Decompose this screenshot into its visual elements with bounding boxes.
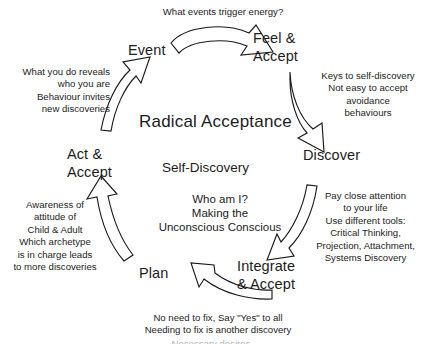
annotation-plan-to-act: Awareness of attitude of Child & Adult W…: [4, 199, 106, 274]
annotation-event-to-feel: What events trigger energy?: [148, 6, 298, 18]
annotation-integrate-to-plan: No need to fix, Say "Yes" to all Needing…: [98, 312, 338, 337]
node-plan[interactable]: Plan: [139, 265, 168, 283]
node-act-accept[interactable]: Act & Accept: [67, 146, 112, 181]
center-question-block: Who am I? Making the Unconscious Conscio…: [140, 192, 300, 234]
annotation-act-to-event: What you do reveals who you are Behaviou…: [10, 66, 110, 116]
radical-acceptance-diagram: Radical Acceptance Self-Discovery Who am…: [0, 0, 432, 344]
page-title: Radical Acceptance: [139, 112, 292, 133]
node-discover[interactable]: Discover: [303, 147, 360, 165]
annotation-discover-to-integrate: Pay close attention to your life Use dif…: [299, 190, 432, 265]
annotation-feel-to-discover: Keys to self-discovery Not easy to accep…: [306, 70, 430, 120]
clipped-footer-text: Necessary desires: [16, 338, 406, 344]
node-event[interactable]: Event: [128, 42, 166, 60]
node-integrate-accept[interactable]: Integrate & Accept: [237, 258, 295, 293]
center-subtitle: Self-Discovery: [162, 160, 249, 176]
node-feel-accept[interactable]: Feel & Accept: [253, 30, 298, 65]
